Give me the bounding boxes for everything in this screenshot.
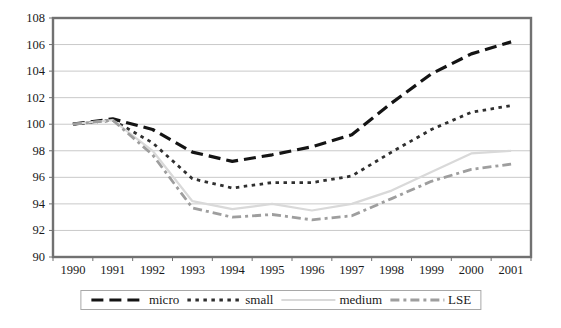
y-tick-label: 94	[33, 197, 46, 211]
x-tick-label: 1997	[339, 263, 364, 277]
y-tick-label: 108	[26, 11, 45, 25]
legend-label-small: small	[245, 293, 273, 307]
y-tick-label: 92	[33, 223, 46, 237]
x-tick-label: 1990	[60, 263, 85, 277]
x-tick-label: 2000	[459, 263, 484, 277]
y-tick-label: 96	[33, 170, 46, 184]
medium-line-sample-icon	[280, 295, 336, 305]
legend-label-lse: LSE	[448, 293, 471, 307]
series-line-lse	[73, 120, 511, 220]
x-tick-label: 1995	[260, 263, 285, 277]
x-tick-label: 1999	[419, 263, 444, 277]
y-tick-label: 104	[26, 64, 46, 78]
legend-label-micro: micro	[149, 293, 179, 307]
x-tick-label: 1993	[180, 263, 205, 277]
legend-item-lse: LSE	[389, 293, 471, 307]
small-line-sample-icon	[186, 295, 242, 305]
legend-label-medium: medium	[339, 293, 382, 307]
y-tick-label: 106	[26, 38, 45, 52]
x-tick-label: 1998	[379, 263, 404, 277]
y-tick-label: 98	[33, 144, 46, 158]
x-tick-label: 1994	[220, 263, 246, 277]
plot-area: 9092949698100102104106108199019911992199…	[0, 0, 561, 328]
y-tick-label: 90	[33, 250, 46, 264]
series-line-medium	[73, 120, 511, 210]
line-chart-figure: 9092949698100102104106108199019911992199…	[0, 0, 561, 328]
x-tick-label: 1996	[299, 263, 324, 277]
x-tick-label: 1991	[100, 263, 125, 277]
y-tick-label: 100	[26, 117, 45, 131]
legend: micro small medium LSE	[80, 290, 481, 310]
micro-line-sample-icon	[90, 295, 146, 305]
plot-frame	[53, 18, 531, 257]
series-line-small	[73, 106, 511, 188]
y-tick-label: 102	[26, 91, 45, 105]
x-tick-label: 2001	[499, 263, 524, 277]
legend-item-medium: medium	[280, 293, 382, 307]
legend-item-small: small	[186, 293, 273, 307]
x-tick-label: 1992	[140, 263, 165, 277]
lse-line-sample-icon	[389, 295, 445, 305]
legend-item-micro: micro	[90, 293, 179, 307]
